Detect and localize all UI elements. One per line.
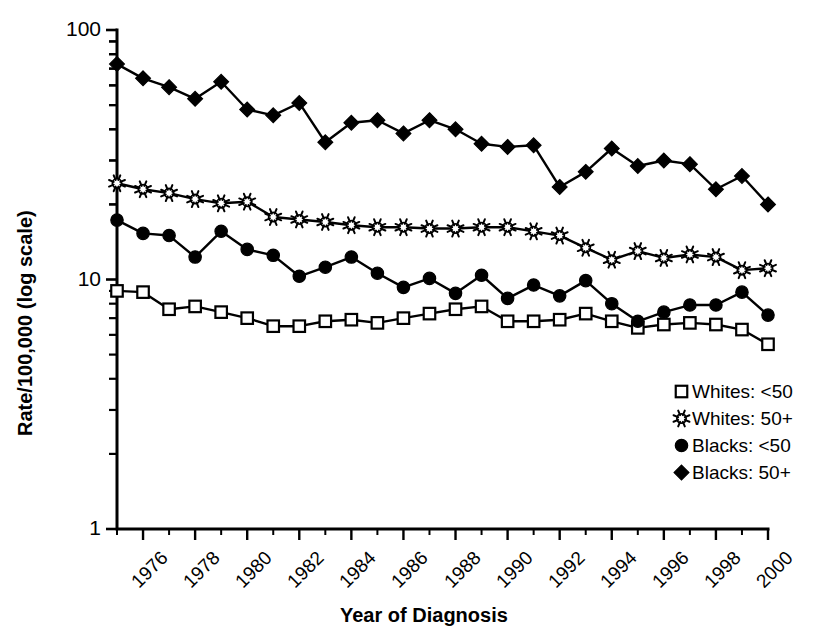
axes [106, 30, 768, 540]
series-markers-0 [111, 285, 774, 350]
y-tick-label: 100 [35, 17, 101, 41]
legend-item: Whites: <50 [672, 378, 832, 405]
y-tick-label: 10 [35, 267, 101, 291]
legend-item-label: Whites: 50+ [692, 409, 793, 428]
legend-item-label: Blacks: 50+ [692, 463, 791, 482]
legend-item: Blacks: <50 [672, 432, 832, 459]
filled-diamond-icon [672, 463, 691, 482]
y-axis-title: Rate/100,000 (log scale) [14, 210, 37, 436]
legend-item: Blacks: 50+ [672, 459, 832, 486]
series-markers-1 [109, 175, 776, 278]
plot-area [0, 0, 832, 634]
chart-legend: Whites: <50Whites: 50+Blacks: <50Blacks:… [672, 378, 832, 486]
star-icon [672, 409, 691, 428]
open-square-icon [672, 382, 691, 401]
y-tick-label: 1 [35, 516, 101, 540]
data-series [109, 57, 776, 350]
series-line-1 [117, 183, 768, 270]
legend-item-label: Whites: <50 [692, 382, 793, 401]
legend-item: Whites: 50+ [672, 405, 832, 432]
chart-figure: Rate/100,000 (log scale) Year of Diagnos… [0, 0, 832, 634]
legend-item-label: Blacks: <50 [692, 436, 791, 455]
filled-circle-icon [672, 436, 691, 455]
series-markers-3 [110, 57, 776, 212]
series-line-3 [117, 64, 768, 204]
